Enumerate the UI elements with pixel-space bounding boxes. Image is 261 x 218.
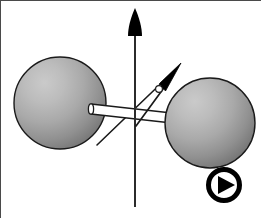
left-atom [14, 57, 106, 149]
figure-container: Rotating diatomic molecule with angular … [0, 0, 261, 218]
right-atom [165, 78, 255, 168]
bond-cap-left [88, 104, 93, 114]
play-button-icon[interactable] [206, 167, 242, 203]
vector-origin-dot [156, 86, 163, 93]
molecule-diagram [0, 0, 261, 218]
